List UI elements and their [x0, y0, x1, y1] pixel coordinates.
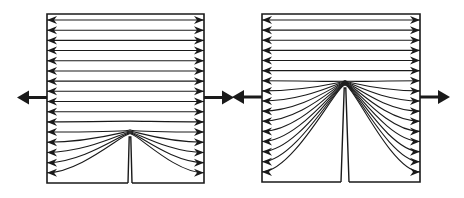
stress-trajectory	[47, 121, 204, 122]
edge-arrow-right-icon	[194, 159, 204, 167]
stress-trajectory	[262, 84, 420, 161]
edge-arrow-left-icon	[47, 169, 57, 177]
edge-arrow-right-icon	[194, 169, 204, 177]
crack	[128, 137, 132, 183]
load-arrow-left-icon	[232, 90, 244, 104]
crack	[341, 88, 349, 182]
edge-arrow-right-icon	[410, 168, 420, 176]
stress-trajectory	[262, 84, 420, 152]
crack-stress-diagram: Plate with short edge crack Plate with l…	[0, 0, 464, 198]
stress-trajectory	[262, 85, 420, 172]
edge-arrow-right-icon	[410, 127, 420, 135]
edge-arrow-right-icon	[410, 148, 420, 156]
load-arrow-right-icon	[438, 90, 450, 104]
panel-long-crack	[232, 14, 450, 182]
stress-trajectory	[262, 83, 420, 141]
load-arrow-right-icon	[222, 91, 234, 105]
edge-arrow-left-icon	[262, 168, 272, 176]
edge-arrow-left-icon	[262, 158, 272, 166]
edge-arrow-right-icon	[410, 158, 420, 166]
load-arrow-left-icon	[17, 91, 29, 105]
edge-arrow-right-icon	[410, 117, 420, 125]
edge-arrow-left-icon	[262, 127, 272, 135]
edge-arrow-right-icon	[410, 138, 420, 146]
diagram-canvas	[0, 0, 464, 198]
edge-arrow-left-icon	[262, 148, 272, 156]
stress-trajectory	[47, 132, 204, 162]
stress-trajectory	[262, 80, 420, 81]
edge-arrow-left-icon	[262, 138, 272, 146]
edge-arrow-left-icon	[262, 117, 272, 125]
stress-trajectory	[47, 133, 204, 173]
panel-short-crack	[17, 14, 234, 183]
